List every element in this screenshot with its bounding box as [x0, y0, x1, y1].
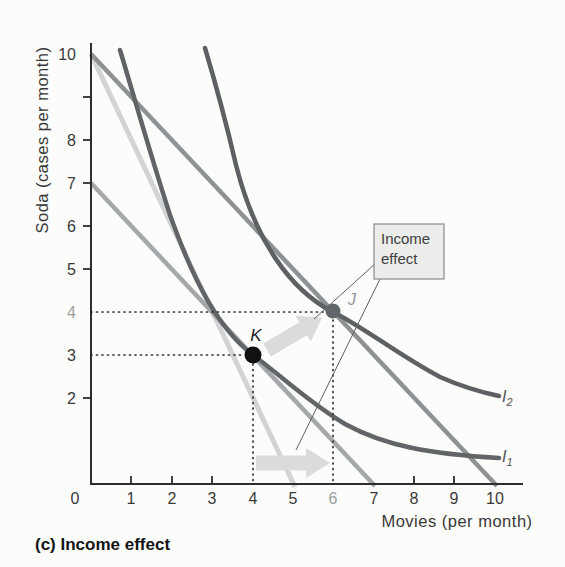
income-effect-box-line2: effect [381, 250, 418, 267]
x-tick-4: 4 [249, 490, 258, 507]
point-k-label: K [250, 326, 262, 345]
x-tick-5: 5 [289, 490, 298, 507]
y-tick-7: 7 [67, 175, 76, 192]
point-j-label: J [347, 291, 357, 308]
callout-line-to-xaxis-arrow [296, 277, 381, 450]
y-tick-2: 2 [67, 390, 76, 407]
x-tick-3: 3 [208, 490, 217, 507]
curve-label-i1: I1 [502, 448, 513, 468]
y-axis-title: Soda (cases per month) [33, 46, 51, 233]
y-tick-5: 5 [67, 261, 76, 278]
point-k-dot [245, 347, 262, 364]
y-tick-6: 6 [67, 218, 76, 235]
y-tick-8: 8 [67, 132, 76, 149]
x-tick-9: 9 [450, 490, 459, 507]
callout-line-to-kj-arrow [314, 263, 376, 319]
income-effect-arrow-xaxis [256, 448, 330, 478]
x-tick-labels: 0 1 2 3 4 5 6 7 8 9 10 [71, 490, 504, 507]
figure-income-effect: 10 8 7 6 5 4 3 2 0 1 2 3 4 5 6 7 8 9 10 … [0, 0, 565, 567]
income-effect-box-line1: Income [381, 230, 430, 247]
chart-canvas: 10 8 7 6 5 4 3 2 0 1 2 3 4 5 6 7 8 9 10 … [0, 0, 565, 567]
curve-label-i2: I2 [502, 388, 513, 408]
x-tick-0: 0 [71, 490, 80, 507]
y-tick-labels: 10 8 7 6 5 4 3 2 [58, 46, 76, 407]
x-tick-2: 2 [168, 490, 177, 507]
point-j-dot [326, 304, 341, 319]
x-axis-title: Movies (per month) [381, 512, 532, 530]
income-effect-arrow-kj [259, 305, 329, 363]
y-tick-marks [83, 97, 91, 398]
y-tick-4: 4 [67, 304, 76, 321]
y-tick-10: 10 [58, 46, 76, 63]
figure-caption: (c) Income effect [35, 535, 170, 555]
y-tick-3: 3 [67, 347, 76, 364]
x-tick-6: 6 [329, 490, 338, 507]
x-tick-7: 7 [370, 490, 379, 507]
x-tick-10: 10 [486, 490, 504, 507]
x-tick-1: 1 [127, 490, 136, 507]
x-tick-8: 8 [410, 490, 419, 507]
